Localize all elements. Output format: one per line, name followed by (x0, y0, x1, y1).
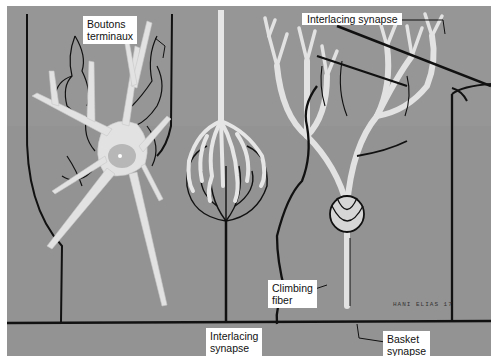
label-basket-line1: Basket (387, 333, 426, 345)
synapse-illustration: Boutons terminaux Interlacing synapse In… (7, 6, 491, 356)
artist-signature: HANI ELIAS 17 (393, 301, 453, 308)
label-boutons-line1: Boutons (87, 18, 133, 30)
label-interlacing-synapse-bottom: Interlacing synapse (206, 328, 262, 356)
label-interlacing-bottom-line1: Interlacing (210, 330, 258, 342)
label-interlacing-bottom-line2: synapse (210, 342, 258, 354)
label-interlacing-synapse-top: Interlacing synapse (302, 13, 402, 25)
label-basket-line2: synapse (387, 345, 426, 356)
label-climbing-line2: fiber (272, 294, 313, 306)
label-climbing-line1: Climbing (272, 282, 313, 294)
label-basket-synapse: Basket synapse (383, 331, 430, 356)
label-climbing-fiber: Climbing fiber (268, 280, 317, 308)
label-boutons-terminaux: Boutons terminaux (83, 16, 137, 44)
label-boutons-line2: terminaux (87, 30, 133, 42)
label-interlacing-top-line1: Interlacing synapse (307, 13, 397, 25)
